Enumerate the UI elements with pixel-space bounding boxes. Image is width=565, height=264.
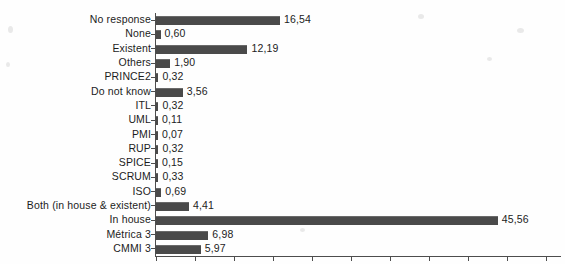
category-label: CMMI 3 [0, 242, 151, 254]
category-label: RUP [0, 142, 151, 154]
x-axis-line [155, 256, 561, 257]
bar [156, 131, 158, 140]
bar-value-label: 1,90 [174, 56, 195, 68]
bar [156, 88, 183, 97]
bar [156, 245, 201, 254]
category-label: No response [0, 13, 151, 25]
category-label: In house [0, 213, 151, 225]
category-label: Do not know [0, 85, 151, 97]
bar-value-label: 4,41 [193, 199, 214, 211]
x-axis-tick [351, 256, 352, 261]
x-axis-tick [468, 256, 469, 261]
bar [156, 202, 189, 211]
bar [156, 159, 158, 168]
x-axis-tick [390, 256, 391, 261]
bar-value-label: 0,69 [165, 185, 186, 197]
bar-value-label: 6,98 [212, 228, 233, 240]
bar-chart: No response16,54None0,60Existent12,19Oth… [0, 0, 565, 264]
category-label: PMI [0, 128, 151, 140]
category-label: ISO [0, 185, 151, 197]
category-label: Both (in house & existent) [0, 199, 151, 211]
bar [156, 231, 208, 240]
bar-value-label: 45,56 [502, 213, 529, 225]
bar-value-label: 12,19 [251, 42, 278, 54]
x-axis-tick [546, 256, 547, 261]
bar-value-label: 0,32 [162, 99, 183, 111]
bar [156, 145, 158, 154]
bar-value-label: 0,33 [162, 170, 183, 182]
bar-value-label: 5,97 [205, 242, 226, 254]
x-axis-tick [312, 256, 313, 261]
bar [156, 45, 247, 54]
bar-value-label: 0,15 [162, 156, 183, 168]
bar-value-label: 0,60 [165, 27, 186, 39]
bar-value-label: 0,32 [162, 70, 183, 82]
bar [156, 30, 161, 39]
category-label: SCRUM [0, 170, 151, 182]
scan-speckle [487, 57, 492, 61]
category-label: Others [0, 56, 151, 68]
category-label: Métrica 3 [0, 228, 151, 240]
category-label: ITL [0, 99, 151, 111]
x-axis-tick [156, 256, 157, 261]
x-axis-tick [195, 256, 196, 261]
bar [156, 59, 170, 68]
bar-value-label: 0,07 [162, 128, 183, 140]
bar-value-label: 0,32 [162, 142, 183, 154]
scan-speckle [300, 228, 305, 232]
bar [156, 188, 161, 197]
x-axis-tick [507, 256, 508, 261]
category-label: Existent [0, 42, 151, 54]
bar [156, 173, 158, 182]
category-label: PRINCE2 [0, 70, 151, 82]
category-label: SPICE [0, 156, 151, 168]
scan-speckle [517, 28, 524, 33]
category-label: None [0, 27, 151, 39]
bar-value-label: 16,54 [284, 13, 311, 25]
category-label: UML [0, 113, 151, 125]
bar [156, 102, 158, 111]
scan-speckle [418, 14, 424, 19]
bar-value-label: 3,56 [187, 85, 208, 97]
x-axis-tick [234, 256, 235, 261]
bar [156, 216, 498, 225]
x-axis-tick [273, 256, 274, 261]
bar-value-label: 0,11 [162, 113, 182, 125]
bar [156, 73, 158, 82]
bar [156, 16, 280, 25]
bar [156, 116, 158, 125]
x-axis-tick [429, 256, 430, 261]
